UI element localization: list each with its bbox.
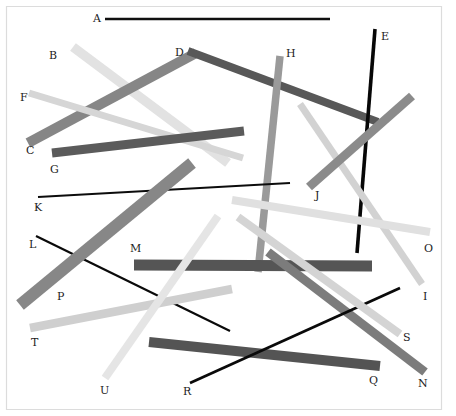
segment-label-p: P [57, 291, 64, 302]
segment-label-r: R [183, 386, 191, 397]
figure-canvas: ABCDEFGHIJKLMNOPQRSTU [0, 0, 456, 416]
segment-label-o: O [424, 243, 433, 254]
segment-label-t: T [31, 337, 38, 348]
segment-label-f: F [20, 92, 28, 103]
segment-label-h: H [286, 48, 296, 59]
segment-label-b: B [49, 50, 57, 61]
segment-label-d: D [175, 47, 184, 58]
segment-label-s: S [403, 332, 411, 343]
line-segment-m [134, 265, 372, 266]
segment-label-j: J [315, 190, 319, 201]
segment-label-a: A [93, 13, 101, 24]
segment-label-c: C [26, 145, 34, 156]
segment-label-n: N [418, 378, 428, 389]
segment-label-e: E [381, 31, 389, 42]
segment-label-q: Q [369, 375, 378, 386]
segment-label-k: K [34, 202, 42, 213]
segment-label-l: L [29, 239, 36, 250]
segment-label-g: G [50, 164, 59, 175]
segment-label-i: I [423, 291, 427, 302]
segment-label-u: U [100, 385, 109, 396]
line-segment-plot [0, 0, 456, 416]
segment-label-m: M [130, 243, 141, 254]
